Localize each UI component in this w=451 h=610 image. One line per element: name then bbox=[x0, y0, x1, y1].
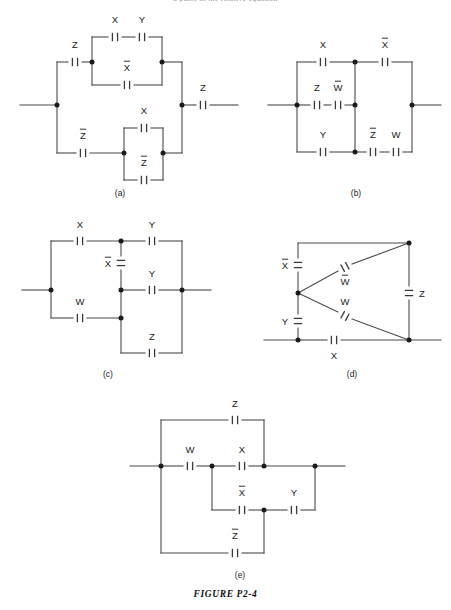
circuit-b: XXZWYZW bbox=[268, 38, 441, 156]
cap-z-low-label: Z bbox=[149, 331, 155, 342]
cap-wbar-diag-plates bbox=[341, 262, 350, 272]
figure-page: a pulse in the relative equation ZXYXZZX… bbox=[0, 0, 451, 610]
cap-x-bottom-label: X bbox=[331, 350, 338, 361]
cap-w-mid-label: W bbox=[186, 444, 195, 455]
cap-z-top: Z bbox=[232, 398, 238, 424]
circuit-a-node-top-left bbox=[90, 60, 95, 65]
subfigure-label-e: (e) bbox=[235, 570, 246, 580]
cap-x-bottom: X bbox=[141, 105, 148, 132]
subfigure-label-d: (d) bbox=[347, 369, 358, 379]
circuit-d-diag-w-a bbox=[298, 293, 338, 312]
cap-y-low-label: Y bbox=[291, 487, 298, 498]
circuit-d-node-bottom-right bbox=[407, 338, 412, 343]
cap-y-top-label: Y bbox=[139, 14, 146, 25]
circuit-b-node-bottom-mid bbox=[353, 150, 358, 155]
cap-zbar-bottom-label: Z bbox=[232, 530, 238, 541]
circuit-c-node-right-terminal bbox=[180, 288, 185, 293]
cap-xbar-low-label: X bbox=[239, 487, 246, 498]
circuit-e-node-mid-left bbox=[210, 464, 215, 469]
cap-w-diag-plate-b bbox=[345, 314, 349, 321]
cap-xbar-top: X bbox=[382, 38, 389, 66]
cap-x-bottom: X bbox=[331, 336, 338, 361]
cap-y-top: Y bbox=[149, 219, 156, 245]
cap-y-bottom: Y bbox=[320, 129, 327, 156]
circuit-b-node-top-mid bbox=[353, 60, 358, 65]
circuit-a-node-left-terminal bbox=[55, 103, 60, 108]
circuit-c-node-low-center bbox=[119, 316, 124, 321]
circuit-e-node-mid-right bbox=[262, 464, 267, 469]
cap-zbar-bottom: Z bbox=[232, 529, 238, 557]
cap-zbar-bottom: Z bbox=[141, 156, 147, 184]
cap-y-bottom-label: Y bbox=[320, 129, 327, 140]
cap-x-mid-label: X bbox=[239, 444, 246, 455]
cap-z-right: Z bbox=[200, 82, 206, 109]
cap-y-low: Y bbox=[291, 487, 298, 514]
circuit-a-node-bottom-left bbox=[122, 151, 127, 156]
cap-w-bottom-label: W bbox=[392, 129, 401, 140]
figure-caption: FIGURE P2-4 bbox=[0, 589, 451, 599]
circuit-d-diag-wbar-b bbox=[352, 243, 409, 264]
cap-y-mid: Y bbox=[149, 268, 156, 294]
cap-z-left: Z bbox=[72, 39, 78, 66]
circuit-e: ZWXXYZ bbox=[130, 398, 345, 557]
circuit-d-diag-w-b bbox=[352, 319, 409, 340]
circuit-c-node-left-terminal bbox=[49, 288, 54, 293]
cap-wbar-mid-label: W bbox=[334, 82, 343, 93]
cap-z-low: Z bbox=[149, 331, 155, 357]
circuit-d-node-bottom-left bbox=[296, 338, 301, 343]
cap-z-right-label: Z bbox=[200, 82, 206, 93]
circuit-b-node-mid-center bbox=[353, 103, 358, 108]
cap-xbar-label: X bbox=[124, 62, 131, 73]
cap-w-diag-plates bbox=[341, 311, 350, 321]
circuit-d: XYZXWW bbox=[264, 241, 441, 362]
figure-canvas: ZXYXZZXZXXZWYZWXYXYWZXYZXWWZWXXYZ (a)(b)… bbox=[0, 0, 451, 610]
cap-xbar-vert: X bbox=[282, 259, 302, 271]
cap-z-mid-label: Z bbox=[314, 82, 320, 93]
cap-xbar-vert-label: X bbox=[282, 260, 289, 271]
cap-w-bottom-label: W bbox=[76, 296, 85, 307]
cap-w-diag-plate-a bbox=[341, 311, 345, 318]
cap-wbar-diag-label: W bbox=[341, 276, 350, 287]
subfigure-label-a: (a) bbox=[115, 188, 126, 198]
cap-xbar: X bbox=[124, 61, 131, 89]
circuit-e-node-low-center bbox=[262, 508, 267, 513]
cap-wbar-diag: W bbox=[341, 262, 350, 287]
circuit-a-node-bottom-right bbox=[161, 151, 166, 156]
cap-x-bottom-label: X bbox=[141, 105, 148, 116]
cap-x-top-label: X bbox=[77, 219, 84, 230]
cap-x-top: X bbox=[112, 14, 119, 41]
circuit-c-node-top-mid bbox=[119, 239, 124, 244]
cap-x-top-label: X bbox=[320, 39, 327, 50]
cap-wbar-mid: W bbox=[334, 81, 343, 109]
cap-x-top: X bbox=[77, 219, 84, 245]
cap-y-vert-label: Y bbox=[282, 316, 289, 327]
cap-x-top-label: X bbox=[112, 14, 119, 25]
cap-x-mid: X bbox=[239, 444, 246, 470]
circuit-d-node-apex-left bbox=[296, 291, 301, 296]
cap-w-bottom: W bbox=[76, 296, 85, 322]
cap-y-vert: Y bbox=[282, 316, 302, 327]
cap-w-diag-label: W bbox=[341, 296, 350, 307]
cap-z-vert: Z bbox=[405, 288, 425, 299]
circuit-c: XYXYWZ bbox=[22, 219, 211, 357]
circuit-a-node-top-right bbox=[160, 60, 165, 65]
circuit-d-diag-wbar-a bbox=[298, 271, 338, 293]
cap-z-vert-label: Z bbox=[419, 288, 425, 299]
cap-zbar-left: Z bbox=[80, 129, 86, 157]
subfigure-label-b: (b) bbox=[351, 188, 362, 198]
cap-y-mid-label: Y bbox=[149, 268, 156, 279]
cap-xbar-low: X bbox=[239, 486, 246, 514]
cap-xbar-vert: X bbox=[105, 257, 125, 269]
cap-y-top-label: Y bbox=[149, 219, 156, 230]
cap-wbar-diag-plate-b bbox=[345, 262, 349, 269]
cap-w-bottom: W bbox=[392, 129, 401, 156]
circuit-a-node-right-terminal bbox=[180, 103, 185, 108]
cap-z-top-label: Z bbox=[232, 398, 238, 409]
cap-zbar-left-label: Z bbox=[80, 130, 86, 141]
cap-zbar-bottom: Z bbox=[370, 128, 376, 156]
cap-w-mid: W bbox=[186, 444, 195, 470]
circuit-c-node-mid-center bbox=[119, 288, 124, 293]
circuit-e-node-left-terminal bbox=[159, 464, 164, 469]
cap-wbar-diag-plate-a bbox=[341, 265, 345, 272]
cap-y-top: Y bbox=[139, 14, 146, 41]
